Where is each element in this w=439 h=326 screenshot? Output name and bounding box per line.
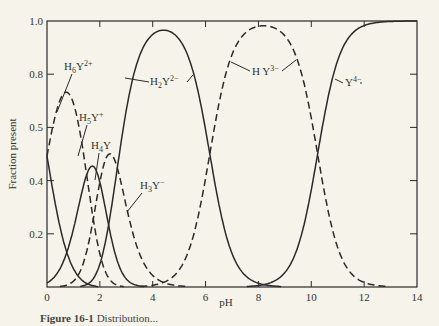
x-tick-label: 0 — [44, 291, 50, 303]
leader-line — [335, 79, 343, 83]
caption-text: Distribution... — [97, 312, 158, 324]
y-tick-label: 0.5 — [29, 121, 43, 133]
x-tick-label: 12 — [359, 291, 370, 303]
label-h3y: H3Y− — [140, 178, 165, 194]
x-axis-title: pH — [219, 296, 233, 308]
plot-frame — [47, 21, 417, 287]
leader-line — [57, 74, 72, 112]
x-tick-label: 8 — [256, 291, 262, 303]
label-h4y: H4Y — [91, 139, 111, 154]
y-tick-label: 0.8 — [29, 68, 43, 80]
x-tick-label: 2 — [97, 291, 103, 303]
x-tick-label: 10 — [306, 291, 318, 303]
y-tick-label: 0.4 — [29, 175, 43, 187]
curve-labels: H6Y2+H5Y+H4YH3Y−H2Y2−H Y3−Y4− — [57, 59, 362, 212]
figure-caption: Figure 16-1 Distribution... — [40, 312, 158, 324]
curve-h4y — [47, 166, 144, 287]
x-tick-label: 6 — [203, 291, 209, 303]
y-tick-label: 0.2 — [29, 228, 43, 240]
caption-label: Figure 16-1 — [40, 312, 94, 324]
leader-line — [127, 193, 142, 212]
leader-line — [282, 60, 296, 71]
label-h6y2: H6Y2+ — [64, 59, 93, 75]
y-tick-label: 1.0 — [29, 15, 43, 27]
leader-line — [78, 125, 87, 156]
x-tick-label: 14 — [412, 291, 424, 303]
y-axis-title: Fraction present — [6, 118, 18, 189]
leader-line — [125, 78, 149, 82]
y-axis: 0.20.40.50.81.0 — [29, 15, 417, 240]
curve-y4 — [247, 21, 417, 287]
distribution-chart: 02468101214 0.20.40.50.81.0 H6Y2+H5Y+H4Y… — [0, 0, 439, 326]
label-hy3: H Y3− — [252, 64, 279, 77]
curve-h2y2 — [80, 30, 281, 287]
leader-line — [231, 62, 250, 71]
x-tick-label: 4 — [150, 291, 156, 303]
curves — [47, 21, 417, 287]
label-h5y: H5Y+ — [79, 110, 104, 126]
leader-line — [187, 75, 193, 82]
label-h2y2: H2Y2− — [150, 74, 179, 90]
curve-h6y2 — [47, 156, 98, 287]
curve-h3y — [60, 154, 188, 287]
label-y4: Y4− — [345, 75, 362, 88]
